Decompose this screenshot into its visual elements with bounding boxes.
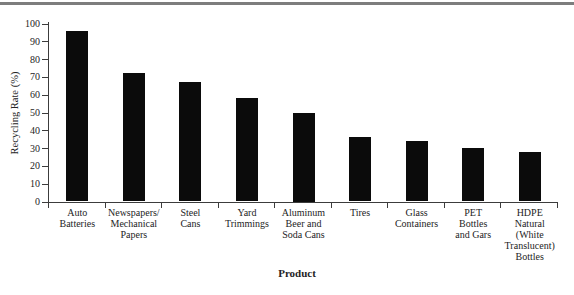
bar bbox=[123, 73, 145, 201]
y-tick-mark bbox=[42, 148, 48, 149]
bar bbox=[179, 82, 201, 201]
recycling-rate-bar-chart: Recycling Rate (%) 010203040506070809010… bbox=[0, 0, 574, 295]
y-tick-mark bbox=[42, 130, 48, 131]
bar bbox=[349, 137, 371, 201]
y-tick-label: 70 bbox=[0, 71, 40, 82]
bar bbox=[462, 148, 484, 201]
y-tick-mark bbox=[42, 166, 48, 167]
x-category-label-line: Beer and bbox=[262, 218, 345, 229]
y-tick-mark bbox=[42, 95, 48, 96]
x-category-label-line: Soda Cans bbox=[262, 229, 345, 240]
y-tick-label: 0 bbox=[0, 196, 40, 207]
y-tick-label: 50 bbox=[0, 107, 40, 118]
y-tick-mark bbox=[42, 184, 48, 185]
x-axis-title: Product bbox=[30, 267, 564, 279]
y-tick-mark bbox=[42, 77, 48, 78]
y-tick-label: 20 bbox=[0, 160, 40, 171]
x-axis-line bbox=[48, 202, 558, 203]
y-tick-mark bbox=[42, 113, 48, 114]
x-category-label-line: Papers bbox=[93, 229, 176, 240]
x-category-label-line: HDPE bbox=[488, 207, 571, 218]
bar bbox=[406, 141, 428, 202]
y-tick-label: 80 bbox=[0, 54, 40, 65]
x-category-label-line: Bottles bbox=[488, 251, 571, 262]
bar bbox=[66, 31, 88, 202]
x-category-label-line: Natural bbox=[488, 218, 571, 229]
y-tick-mark bbox=[42, 24, 48, 25]
plot-area: 0102030405060708090100AutoBatteriesNewsp… bbox=[0, 0, 574, 295]
y-tick-mark bbox=[42, 59, 48, 60]
y-tick-label: 10 bbox=[0, 178, 40, 189]
x-category-label-line: Translucent) bbox=[488, 240, 571, 251]
y-tick-label: 30 bbox=[0, 143, 40, 154]
bar bbox=[236, 98, 258, 201]
y-tick-mark bbox=[42, 41, 48, 42]
y-tick-label: 90 bbox=[0, 36, 40, 47]
bar bbox=[293, 113, 315, 202]
x-category-label: HDPENatural(WhiteTranslucent)Bottles bbox=[488, 207, 571, 262]
x-category-label-line: (White bbox=[488, 229, 571, 240]
y-tick-label: 60 bbox=[0, 89, 40, 100]
bar bbox=[519, 152, 541, 202]
y-tick-label: 100 bbox=[0, 18, 40, 29]
y-tick-label: 40 bbox=[0, 125, 40, 136]
y-axis-line bbox=[48, 22, 49, 203]
